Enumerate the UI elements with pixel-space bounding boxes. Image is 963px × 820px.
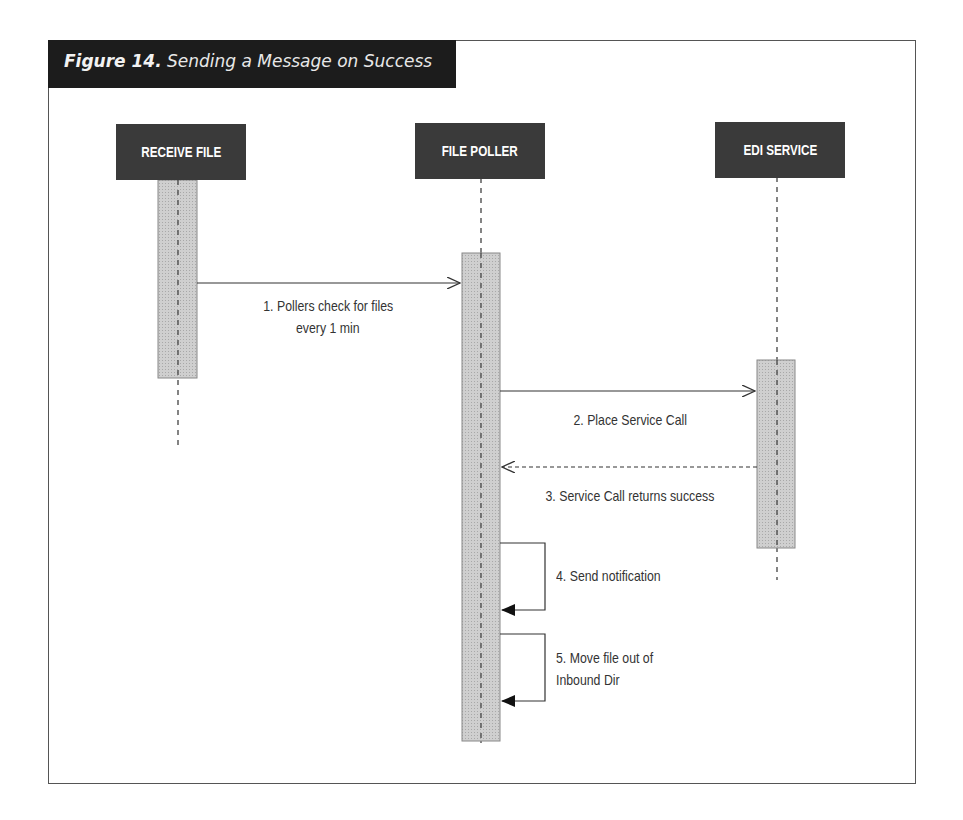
actor-file-poller: FILE POLLER bbox=[415, 123, 545, 179]
message-arrow-4 bbox=[500, 543, 545, 610]
message-label-line: 2. Place Service Call bbox=[573, 409, 686, 431]
activation-edi-service bbox=[757, 360, 795, 548]
message-label-line: 3. Service Call returns success bbox=[546, 485, 715, 507]
message-label-5: 5. Move file out of Inbound Dir bbox=[556, 647, 674, 691]
message-label-line: 5. Move file out of bbox=[556, 647, 653, 669]
message-label-2: 2. Place Service Call bbox=[530, 409, 730, 431]
activation-receive-file bbox=[158, 180, 197, 378]
actor-receive-file: RECEIVE FILE bbox=[116, 124, 246, 180]
message-label-4: 4. Send notification bbox=[556, 565, 684, 587]
message-label-1: 1. Pollers check for files every 1 min bbox=[218, 295, 438, 339]
message-label-line: Inbound Dir bbox=[556, 669, 620, 691]
message-label-3: 3. Service Call returns success bbox=[510, 485, 750, 507]
actor-edi-service: EDI SERVICE bbox=[715, 122, 845, 178]
actor-label: RECEIVE FILE bbox=[141, 124, 221, 180]
message-label-line: 4. Send notification bbox=[556, 565, 661, 587]
message-label-line: 1. Pollers check for files bbox=[263, 295, 393, 317]
message-arrow-5 bbox=[500, 634, 545, 701]
message-label-line: every 1 min bbox=[296, 317, 360, 339]
actor-label: FILE POLLER bbox=[442, 123, 518, 179]
actor-label: EDI SERVICE bbox=[743, 122, 817, 178]
